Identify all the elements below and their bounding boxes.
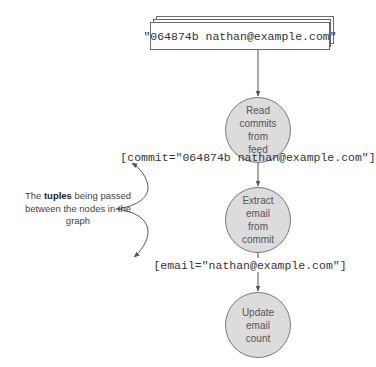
source-text: "064874b nathan@example.com" [143,30,336,43]
tuples-annotation: The tuples being passed between the node… [18,190,138,228]
tuple-email: [email="nathan@example.com"] [153,259,346,272]
node-update-count: Update email count [225,292,291,358]
annotation-emphasis: tuples [44,190,72,201]
node-label: Update email count [242,306,274,345]
node-label: Read commits from feed [239,104,276,156]
node-label: Extract email from commit [242,194,274,246]
tuple-commit: [commit="064874b nathan@example.com"] [120,151,375,164]
source-feed-box: "064874b nathan@example.com" [150,22,330,50]
node-extract-email: Extract email from commit [225,187,291,253]
annotation-prefix: The [25,190,44,201]
